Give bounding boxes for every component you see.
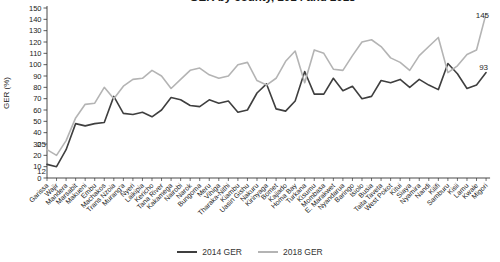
y-tick-label: 100 [29,60,42,69]
y-axis-title: GER (%) [2,77,11,109]
y-tick-label: 150 [29,4,42,13]
y-tick-label: 40 [33,128,41,137]
value-annotation: 145 [476,11,490,20]
y-tick-label: 20 [33,151,41,160]
series-line-2018 [47,14,486,156]
legend-swatch-2018-line [258,251,278,253]
legend-label-2018: 2018 GER [283,247,323,257]
series-line-2014 [47,64,486,167]
y-tick-label: 80 [33,83,41,92]
legend-item-2014: 2014 GER [177,247,242,257]
value-annotation: 93 [479,63,488,72]
ger-line-chart: 0102030405060708090100110120130140150GER… [0,0,500,240]
y-tick-label: 120 [29,38,42,47]
y-tick-label: 130 [29,26,42,35]
legend-swatch-2014-line [177,251,197,253]
legend-label-2014: 2014 GER [202,247,242,257]
y-tick-label: 50 [33,117,41,126]
y-tick-label: 60 [33,106,41,115]
legend: 2014 GER 2018 GER [0,247,500,257]
y-tick-label: 140 [29,15,42,24]
y-tick-label: 70 [33,94,41,103]
value-annotation: 12 [37,167,46,176]
y-tick-label: 110 [30,49,42,58]
y-tick-label: 90 [33,72,41,81]
value-annotation: 25 [37,140,46,149]
legend-item-2018: 2018 GER [258,247,323,257]
